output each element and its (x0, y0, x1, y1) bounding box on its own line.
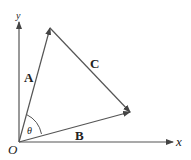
vector-a-label: A (24, 70, 34, 85)
vector-c-label: C (90, 56, 99, 71)
vector-a (19, 28, 50, 142)
x-axis-label: x (175, 134, 182, 149)
y-axis-label: y (15, 10, 21, 21)
origin-label: O (8, 142, 18, 157)
angle-label: θ (27, 125, 32, 136)
vector-diagram: y x O A B C θ (0, 0, 191, 160)
vector-b-label: B (75, 128, 84, 143)
